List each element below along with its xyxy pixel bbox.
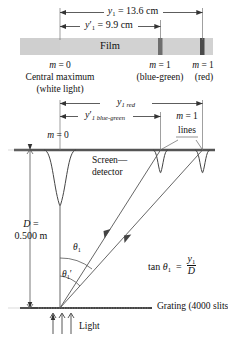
incident-light-label: Light — [79, 322, 100, 332]
film-label: Film — [100, 40, 120, 51]
film-line-blue-green — [158, 38, 163, 55]
angle-theta1-prime-label: θ1′ — [62, 270, 72, 280]
film-caption-blue-green: (blue-green) — [137, 73, 184, 83]
distance-D-label-line2: 0.500 m — [15, 231, 48, 242]
dimension-y1-red-label: y1 = 13.6 cm — [108, 6, 159, 18]
diffraction-grating-figure: y1 = 13.6 cm y′1 = 9.9 cm Film m = 0 m =… — [0, 0, 228, 346]
dimension-y1-prime-blue-green-label: y′1 = 9.9 cm — [85, 20, 133, 32]
film-caption-white-light: (white light) — [36, 85, 83, 95]
angle-theta1-label: θ1 — [73, 243, 81, 253]
film-order-m0: m = 0 — [49, 61, 71, 71]
screen-dimension-y1-red-label: y1 red — [117, 97, 135, 109]
film-order-m1-red: m = 1 — [192, 61, 214, 71]
tangent-formula: tan θ1 = y1 D — [148, 254, 196, 276]
grating-label: Grating (4000 slits/cm) — [157, 302, 228, 312]
intensity-peak-m0 — [44, 150, 76, 206]
angle-arc-theta1 — [60, 258, 92, 269]
m1-lines-leaders — [162, 137, 202, 149]
screen-order-m1: m = 1 — [176, 112, 198, 122]
intensity-peak-blue-green — [153, 150, 168, 173]
film-order-m1-blue-green: m = 1 — [149, 61, 171, 71]
intensity-peak-red — [195, 150, 210, 173]
film-line-red — [200, 38, 205, 55]
film-caption-red: (red) — [195, 73, 213, 83]
distance-D-label-line1: D = — [23, 219, 38, 230]
screen-detector-label-line2: detector — [92, 168, 123, 178]
screen-dimension-y1-prime-blue-green-label: y′1 blue-green — [85, 110, 125, 122]
ray-direction-arrowheads — [104, 229, 132, 243]
screen-order-m1-lines-label: lines — [178, 126, 196, 136]
incident-light-arrows — [50, 313, 74, 334]
film-caption-central-maximum: Central maximum — [26, 73, 95, 83]
screen-order-m0: m = 0 — [47, 131, 69, 141]
screen-detector-label-line1: Screen— — [92, 156, 127, 166]
film-strip-left-section — [20, 38, 60, 55]
ray-red-m1 — [60, 150, 203, 308]
